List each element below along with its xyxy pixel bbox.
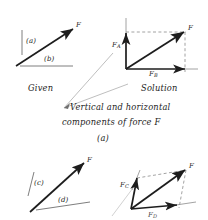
axis-label-b: (b) [44,56,55,63]
force-label-fc: FC [120,182,129,189]
force-label-f-solution-bottom: F [189,163,194,170]
resultant-vector-f-bottom [131,170,185,209]
leader-line-to-fa [64,53,113,108]
caption-leader-lines [64,53,128,109]
figure-caption-line2: components of force F [62,118,161,126]
resultant-vector-f-top [126,32,184,69]
force-label-f-given-bottom: F [87,157,92,164]
panel-given-bottom-graphics [28,163,90,212]
component-vector-fd [131,205,177,209]
figure-caption-line1: Vertical and horizontal [70,103,170,111]
figure-canvas: (a) (b) F Given FA FB F Solution Vertica… [0,0,208,220]
panel-title-given: Given [28,84,53,92]
panel-solution-bottom-graphics [112,170,196,216]
force-label-fb-subscript: B [154,72,158,78]
force-vector-f-given-bottom [30,163,84,212]
force-label-fd: FD [148,212,157,219]
construction-line-right-dashed-bottom [179,170,186,208]
baseline-extension-bottom [176,202,196,205]
force-label-f-solution-top: F [188,25,193,32]
axis-label-a: (a) [26,38,36,45]
force-label-fc-subscript: C [125,183,129,189]
axis-label-d: (d) [58,197,69,204]
force-label-fd-subscript: D [153,213,157,219]
force-label-fb: FB [149,71,158,78]
leader-line-bottom [112,188,133,216]
axis-label-c: (c) [34,180,44,187]
panel-title-solution: Solution [141,84,178,92]
force-label-f-given-top: F [76,22,81,29]
figure-number: (a) [97,134,109,142]
force-label-fa: FA [112,42,121,49]
force-label-fa-subscript: A [117,43,121,49]
